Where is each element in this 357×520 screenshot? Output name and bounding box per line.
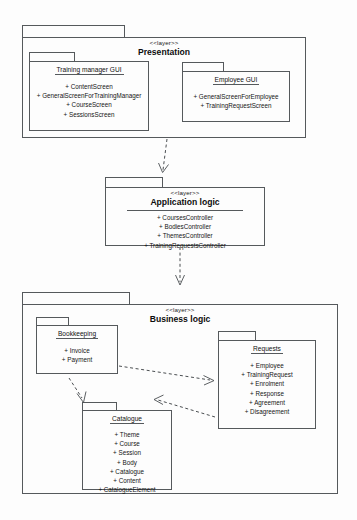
member-item: + CoursesController bbox=[105, 213, 265, 222]
member-item: + GeneralScreenForTrainingManager bbox=[29, 91, 149, 100]
member-item: + Agreement bbox=[218, 398, 316, 407]
package-label-bookkeeping: Bookkeeping bbox=[36, 330, 118, 337]
member-item: + Content bbox=[82, 476, 172, 485]
member-item: + Course bbox=[82, 439, 172, 448]
member-list-catalogue: + Theme + Course + Session + Body + Cata… bbox=[82, 430, 172, 494]
package-employee-gui[interactable]: Employee GUI + GeneralScreenForEmployee … bbox=[182, 62, 290, 122]
member-item: + Theme bbox=[82, 430, 172, 439]
package-bookkeeping[interactable]: Bookkeeping + Invoice + Payment bbox=[36, 317, 118, 374]
member-item: + BodiesController bbox=[105, 222, 265, 231]
dependency-application-logic-to-business-logic bbox=[176, 247, 185, 285]
member-list-application-logic: + CoursesController + BodiesController +… bbox=[105, 213, 265, 250]
uml-package-diagram: <<layer>> Presentation Training manager … bbox=[0, 0, 357, 520]
member-item: + ContentScreen bbox=[29, 82, 149, 91]
member-item: + Session bbox=[82, 448, 172, 457]
layer-header-application-logic: <<layer>> Application logic bbox=[105, 190, 265, 207]
dependency-presentation-to-application-logic bbox=[159, 139, 169, 173]
layer-package-application-logic[interactable]: <<layer>> Application logic + CoursesCon… bbox=[105, 177, 265, 246]
member-item: + CatalogueElement bbox=[82, 485, 172, 494]
member-item: + TrainingRequest bbox=[218, 370, 316, 379]
layer-title: Application logic bbox=[105, 198, 265, 207]
package-label-employee-gui: Employee GUI bbox=[182, 76, 290, 83]
member-item: + CourseScreen bbox=[29, 100, 149, 109]
member-item: + Employee bbox=[218, 361, 316, 370]
member-list-training-manager-gui: + ContentScreen + GeneralScreenForTraini… bbox=[29, 82, 149, 119]
member-list-bookkeeping: + Invoice + Payment bbox=[36, 346, 118, 364]
package-label-requests: Requests bbox=[218, 345, 316, 352]
package-label-training-manager-gui: Training manager GUI bbox=[29, 66, 149, 73]
member-item: + Enrolment bbox=[218, 379, 316, 388]
layer-package-presentation[interactable]: <<layer>> Presentation Training manager … bbox=[22, 25, 306, 138]
member-item: + Response bbox=[218, 389, 316, 398]
member-item: + Disagreement bbox=[218, 407, 316, 416]
member-item: + ThemesController bbox=[105, 231, 265, 240]
member-item: + TrainingRequestScreen bbox=[182, 101, 290, 110]
member-item: + Payment bbox=[36, 355, 118, 364]
package-training-manager-gui[interactable]: Training manager GUI + ContentScreen + G… bbox=[29, 52, 149, 131]
member-item: + Catalogue bbox=[82, 467, 172, 476]
layer-package-business-logic[interactable]: <<layer>> Business logic Bookkeeping + I… bbox=[22, 292, 338, 494]
member-item: + Invoice bbox=[36, 346, 118, 355]
member-item: + TrainingRequestsController bbox=[105, 241, 265, 250]
member-item: + GeneralScreenForEmployee bbox=[182, 92, 290, 101]
member-list-employee-gui: + GeneralScreenForEmployee + TrainingReq… bbox=[182, 92, 290, 110]
stereotype-label: <<layer>> bbox=[105, 190, 265, 197]
package-requests[interactable]: Requests + Employee + TrainingRequest + … bbox=[218, 331, 316, 429]
member-list-requests: + Employee + TrainingRequest + Enrolment… bbox=[218, 361, 316, 416]
title-separator bbox=[127, 210, 243, 211]
stereotype-label: <<layer>> bbox=[22, 40, 306, 47]
stereotype-label: <<layer>> bbox=[22, 307, 338, 314]
package-label-catalogue: Catalogue bbox=[82, 415, 172, 422]
member-item: + Body bbox=[82, 458, 172, 467]
package-catalogue[interactable]: Catalogue + Theme + Course + Session + B… bbox=[82, 402, 172, 490]
member-item: + SessionsScreen bbox=[29, 110, 149, 119]
